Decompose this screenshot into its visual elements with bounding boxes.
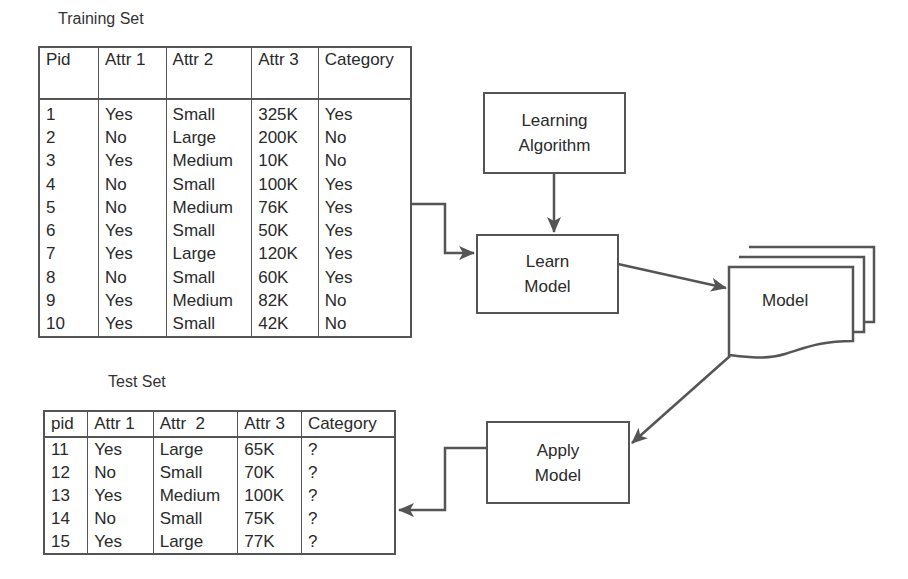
cell: 120K (252, 243, 319, 266)
cell: 15 (44, 530, 88, 554)
cell: No (318, 313, 411, 337)
table-row: 3YesMedium10KNo (39, 150, 411, 173)
learning-algorithm-box: Learning Algorithm (483, 92, 626, 174)
cell: 13 (44, 484, 88, 507)
cell: No (98, 196, 166, 219)
table-row: 14NoSmall75K? (44, 507, 395, 530)
cell: Yes (318, 243, 411, 266)
arrow-model-to-apply (632, 356, 730, 443)
cell: ? (301, 437, 395, 461)
table-row: 7YesLarge120KYes (39, 243, 411, 266)
table-row: 13YesMedium100K? (44, 484, 395, 507)
cell: 70K (238, 461, 302, 484)
cell: 2 (39, 126, 98, 149)
cell: 11 (44, 437, 88, 461)
training-set-table: Pid Attr 1 Attr 2 Attr 3 Category 1YesSm… (38, 46, 412, 338)
cell: Yes (318, 173, 411, 196)
table-row: 15YesLarge77K? (44, 530, 395, 554)
cell: Yes (88, 484, 154, 507)
cell: Small (153, 461, 238, 484)
table-row: 12NoSmall70K? (44, 461, 395, 484)
cell: ? (301, 507, 395, 530)
cell: 50K (252, 219, 319, 242)
cell: 60K (252, 266, 319, 289)
cell: 100K (238, 484, 302, 507)
column-header: Attr 2 (166, 47, 252, 99)
cell: 76K (252, 196, 319, 219)
column-header: Attr 3 (252, 47, 319, 99)
model-label: Model (762, 291, 808, 311)
learn-model-label-line1: Learn (526, 249, 569, 274)
cell: Medium (153, 484, 238, 507)
cell: No (98, 173, 166, 196)
cell: Small (166, 313, 252, 337)
column-header: Category (318, 47, 411, 99)
table-header-row: pid Attr 1 Attr 2 Attr 3 Category (44, 411, 395, 437)
cell: 75K (238, 507, 302, 530)
arrow-training-to-learn (412, 204, 474, 253)
cell: Small (166, 219, 252, 242)
test-set-title: Test Set (108, 373, 166, 391)
cell: Large (166, 243, 252, 266)
cell: Yes (98, 99, 166, 126)
cell: Large (166, 126, 252, 149)
cell: 10K (252, 150, 319, 173)
cell: 4 (39, 173, 98, 196)
cell: No (98, 266, 166, 289)
cell: 5 (39, 196, 98, 219)
training-set-title: Training Set (58, 10, 144, 28)
table-row: 5NoMedium76KYes (39, 196, 411, 219)
cell: ? (301, 530, 395, 554)
cell: 325K (252, 99, 319, 126)
cell: ? (301, 484, 395, 507)
cell: 12 (44, 461, 88, 484)
arrow-apply-to-test (399, 448, 486, 510)
column-header: Attr 1 (98, 47, 166, 99)
cell: No (88, 461, 154, 484)
learning-algorithm-label-line1: Learning (521, 108, 587, 133)
apply-model-label-line1: Apply (537, 438, 580, 463)
learning-algorithm-label-line2: Algorithm (519, 133, 591, 158)
cell: Yes (318, 219, 411, 242)
table-row: 9YesMedium82KNo (39, 289, 411, 312)
column-header: Attr 2 (153, 411, 238, 437)
cell: 10 (39, 313, 98, 337)
cell: 8 (39, 266, 98, 289)
table-row: 6YesSmall50KYes (39, 219, 411, 242)
cell: 200K (252, 126, 319, 149)
cell: Large (153, 530, 238, 554)
cell: 14 (44, 507, 88, 530)
cell: Small (166, 173, 252, 196)
cell: Large (153, 437, 238, 461)
arrow-learn-to-model (618, 264, 726, 288)
cell: No (88, 507, 154, 530)
cell: 77K (238, 530, 302, 554)
cell: Yes (98, 243, 166, 266)
cell: Yes (88, 530, 154, 554)
table-row: 8NoSmall60KYes (39, 266, 411, 289)
column-header: Pid (39, 47, 98, 99)
table-row: 2NoLarge200KNo (39, 126, 411, 149)
table-row: 4NoSmall100KYes (39, 173, 411, 196)
cell: Small (166, 266, 252, 289)
cell: No (318, 126, 411, 149)
cell: Yes (318, 266, 411, 289)
cell: Small (153, 507, 238, 530)
cell: Medium (166, 289, 252, 312)
table-header-row: Pid Attr 1 Attr 2 Attr 3 Category (39, 47, 411, 99)
cell: 3 (39, 150, 98, 173)
column-header: Attr 3 (238, 411, 302, 437)
cell: Yes (98, 313, 166, 337)
cell: Yes (318, 196, 411, 219)
cell: Medium (166, 196, 252, 219)
cell: Yes (318, 99, 411, 126)
cell: 65K (238, 437, 302, 461)
cell: No (318, 289, 411, 312)
learn-model-label-line2: Model (524, 274, 570, 299)
table-row: 10YesSmall42KNo (39, 313, 411, 337)
column-header: Attr 1 (88, 411, 154, 437)
column-header: Category (301, 411, 395, 437)
apply-model-box: Apply Model (486, 421, 630, 504)
test-set-table: pid Attr 1 Attr 2 Attr 3 Category 11YesL… (43, 410, 396, 555)
cell: 1 (39, 99, 98, 126)
